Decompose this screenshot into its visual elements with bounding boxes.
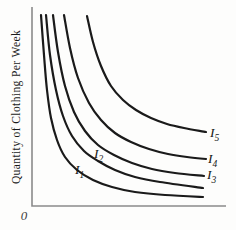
indifference-curve-I5 xyxy=(87,16,206,132)
curve-label-I1: I1 xyxy=(74,162,84,180)
curve-label-I4: I4 xyxy=(207,151,218,169)
indifference-curve-I4 xyxy=(64,15,206,159)
indifference-curve-I3 xyxy=(53,15,204,176)
indifference-curve-I1 xyxy=(41,15,203,197)
chart-svg: I1I2I3I4I5 xyxy=(0,0,236,230)
curve-label-I3: I3 xyxy=(206,167,217,185)
curve-label-I5: I5 xyxy=(209,125,220,143)
indifference-curve-figure: Quantity of Clothing Per Week 0 I1I2I3I4… xyxy=(0,0,236,230)
